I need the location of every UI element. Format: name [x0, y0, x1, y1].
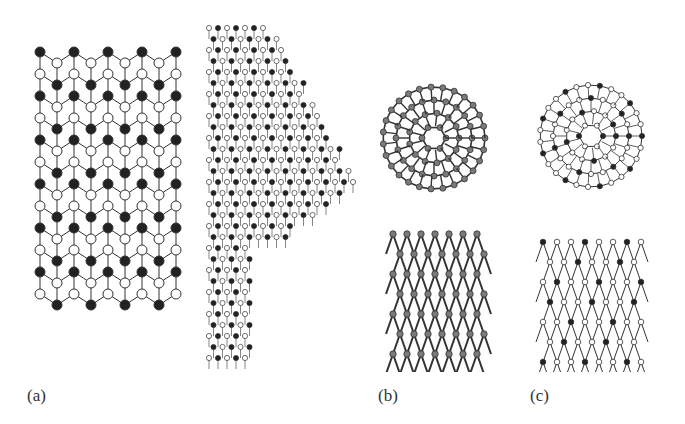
- cage-b-illustration: [378, 82, 490, 194]
- panel-label-b: (b): [378, 386, 398, 406]
- tube-b-illustration: [385, 222, 495, 372]
- panel-a-cone-tube: [205, 22, 360, 372]
- tube-c-illustration: [535, 230, 650, 372]
- panel-a-cylinder-tube: [30, 40, 190, 320]
- nanotube-cylinder-illustration: [30, 40, 190, 320]
- panel-c-tube: [535, 230, 650, 372]
- panel-label-a: (a): [27, 386, 46, 406]
- panel-b-tube: [385, 222, 495, 372]
- cage-c-illustration: [535, 80, 647, 194]
- panel-label-c: (c): [530, 386, 549, 406]
- nanotube-cone-illustration: [205, 22, 360, 372]
- panel-c-cage: [535, 80, 647, 194]
- panel-b-cage: [378, 82, 490, 194]
